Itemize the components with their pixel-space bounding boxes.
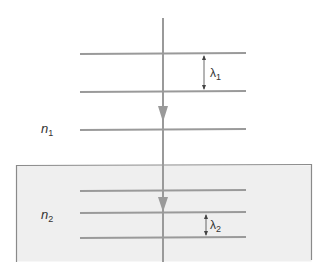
ray-arrow-1-icon — [158, 106, 168, 122]
lambda-1-label: λ1 — [210, 66, 221, 82]
lambda-1-dimension — [202, 55, 206, 90]
n1-label: n1 — [41, 121, 53, 138]
refraction-diagram: λ1 λ2 n1 n2 — [0, 0, 328, 275]
